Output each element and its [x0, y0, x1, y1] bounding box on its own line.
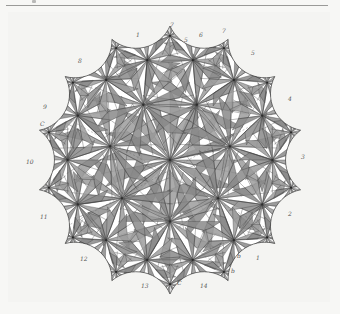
figure-label: b: [237, 253, 241, 259]
figure-label: 1: [136, 32, 140, 38]
figure-label: 1: [256, 255, 260, 261]
figure-label: C: [40, 121, 45, 127]
figure-label: 12: [80, 256, 88, 262]
figure-label: b: [231, 268, 235, 274]
figure-label: 2: [288, 211, 292, 217]
figure-label: 3: [301, 154, 305, 160]
figure-label: 9: [43, 104, 47, 110]
figure-label: 5: [184, 37, 188, 43]
figure-label: 7: [170, 22, 174, 28]
figure-label: 13: [141, 283, 149, 289]
figure-label: 5: [251, 50, 255, 56]
figure-label: 6: [199, 32, 203, 38]
figure-label: 7: [222, 28, 226, 34]
figure-label: 10: [26, 159, 34, 165]
figure-label: C: [177, 280, 182, 286]
figure-label: 14: [200, 283, 208, 289]
figure-label: 11: [40, 214, 48, 220]
figure-label: 8: [78, 58, 82, 64]
figure-label: 4: [288, 96, 292, 102]
tessellation-figure: [0, 0, 340, 314]
